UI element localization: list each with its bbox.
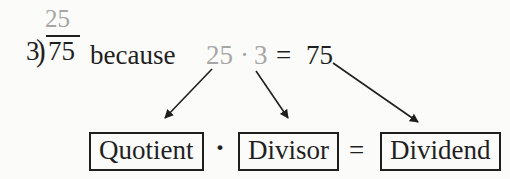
because-label: because: [90, 41, 175, 69]
division-bracket-icon: ): [36, 33, 46, 67]
division-fact-diagram: 25 3 ) 75 because 25 · 3 = 75 Quotient ·…: [0, 0, 510, 179]
arrow-to-quotient-box-icon: [165, 69, 212, 118]
long-division-dividend: 75: [46, 35, 80, 67]
row-multiplication-dot-icon: ·: [215, 131, 225, 163]
dividend-box: Dividend: [380, 132, 501, 171]
equation-quotient-factor: 25: [206, 41, 233, 69]
equation-divisor-factor: 3: [254, 41, 268, 69]
multiplication-dot-icon: ·: [240, 41, 249, 69]
quotient-box: Quotient: [89, 132, 204, 171]
row-equals-sign: =: [349, 136, 364, 164]
long-division-quotient: 25: [45, 6, 70, 32]
arrow-to-divisor-box-icon: [256, 71, 288, 118]
arrow-to-dividend-box-icon: [333, 63, 418, 122]
divisor-box: Divisor: [238, 132, 339, 171]
equation-product: 75: [306, 41, 333, 69]
equation-equals-sign: =: [276, 41, 291, 69]
